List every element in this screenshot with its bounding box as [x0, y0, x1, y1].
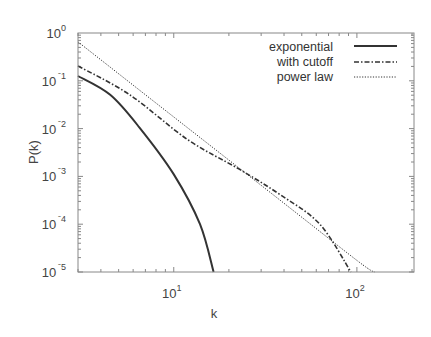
legend-label-exponential: exponential — [269, 40, 333, 54]
y-axis-ticks: 10010 ˉ110 ˉ210 ˉ310 ˉ410 ˉ5 — [42, 23, 66, 280]
y-tick-label: 10 ˉ3 — [42, 166, 66, 184]
y-tick-label: 10 ˉ4 — [42, 214, 66, 232]
plot-frame — [78, 33, 414, 272]
y-tick-label: 100 — [47, 23, 66, 41]
x-tick-label: 102 — [345, 283, 364, 301]
series-exponential — [78, 76, 214, 272]
y-tick-label: 10 ˉ2 — [42, 119, 66, 137]
series-with-cutoff — [78, 66, 351, 272]
minor-ticks — [78, 33, 414, 272]
y-tick-label: 10 ˉ5 — [42, 262, 66, 280]
x-axis-ticks: 101102 — [162, 283, 365, 301]
chart-canvas: 10010 ˉ110 ˉ210 ˉ310 ˉ410 ˉ5 101102 k P(… — [0, 0, 431, 337]
legend-label-with-cutoff: with cutoff — [276, 55, 334, 69]
y-axis-title: P(k) — [26, 140, 41, 164]
x-axis-title: k — [211, 306, 218, 321]
y-tick-label: 10 ˉ1 — [42, 71, 66, 89]
x-tick-label: 101 — [162, 283, 181, 301]
legend-label-power-law: power law — [277, 70, 334, 84]
legend: exponential with cutoff power law — [269, 40, 397, 84]
